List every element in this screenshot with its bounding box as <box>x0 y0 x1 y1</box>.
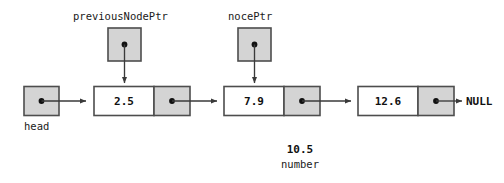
node-ptr-label: nocePtr <box>228 10 272 22</box>
node-1-value: 2.5 <box>94 95 154 108</box>
diagram-canvas <box>0 0 504 183</box>
number-annotation-caption: number <box>265 158 335 170</box>
node-2-value: 7.9 <box>224 95 284 108</box>
node-3-value: 12.6 <box>358 95 418 108</box>
previous-node-ptr-label: previousNodePtr <box>73 10 168 22</box>
head-pointer-label: head <box>24 120 49 132</box>
number-annotation-value: 10.5 <box>265 143 335 156</box>
linked-list-diagram: previousNodePtr nocePtr head 2.5 7.9 12.… <box>0 0 504 183</box>
null-terminator-label: NULL <box>466 95 493 108</box>
